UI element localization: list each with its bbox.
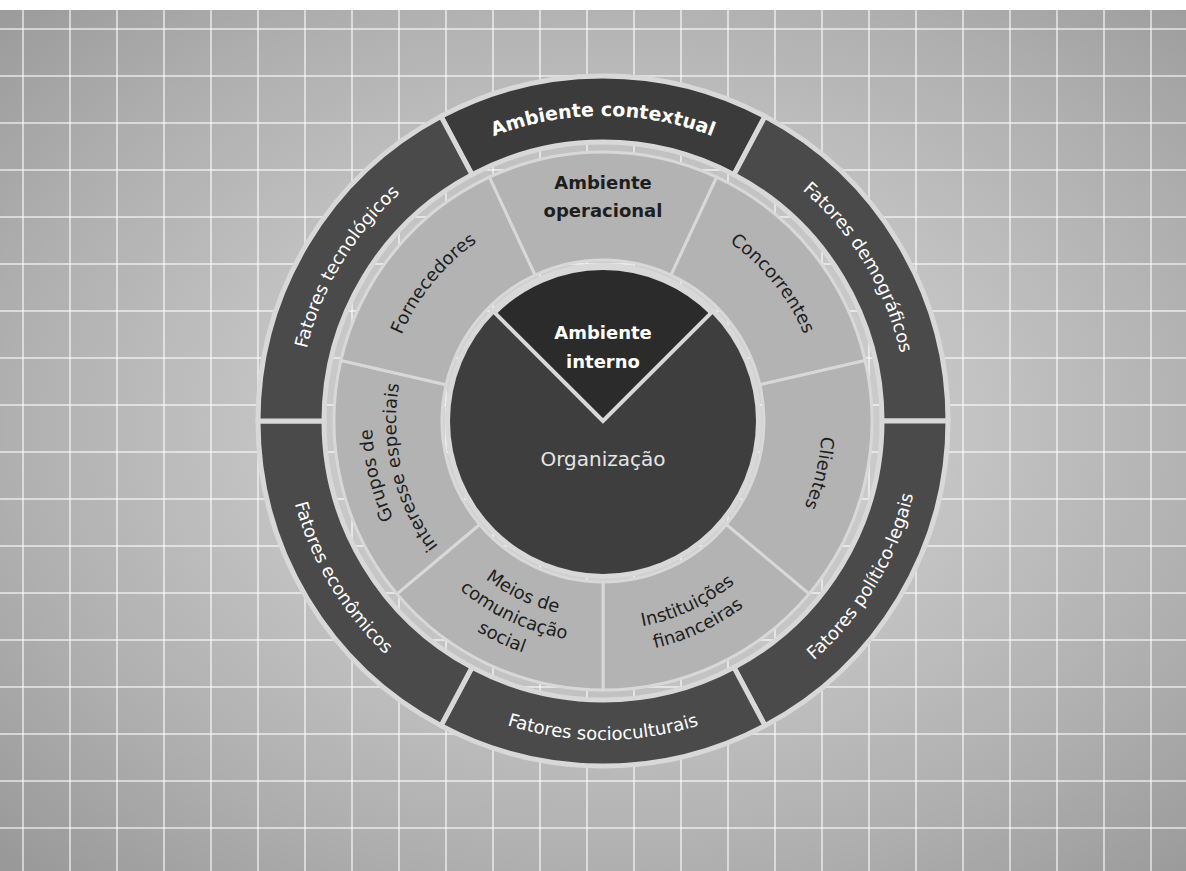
- environment-diagram: Ambiente contextualFatores demográficosF…: [0, 0, 1186, 861]
- inner-circle-organization: AmbienteinternoOrganização: [445, 263, 761, 579]
- organization-label: Organização: [540, 447, 665, 471]
